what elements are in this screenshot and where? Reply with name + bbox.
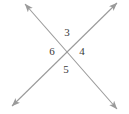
line-upper-left-to-lower-right	[25, 4, 117, 109]
intersecting-lines-diagram: 3 6 4 5	[0, 0, 129, 114]
angle-label-left: 6	[46, 46, 58, 57]
angle-label-right: 4	[76, 46, 88, 57]
diagram-canvas	[0, 0, 129, 114]
angle-label-bottom: 5	[60, 64, 72, 75]
angle-label-top: 3	[61, 27, 73, 38]
